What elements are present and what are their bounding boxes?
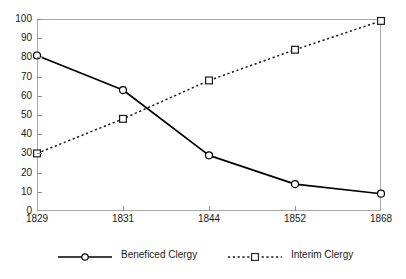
y-axis-tick-mark bbox=[37, 173, 42, 174]
y-axis-tick-mark bbox=[37, 38, 42, 39]
data-point-marker[interactable] bbox=[120, 115, 127, 122]
x-axis-tick-mark bbox=[123, 206, 124, 211]
data-point-marker[interactable] bbox=[292, 46, 299, 53]
y-axis-tick-mark bbox=[37, 19, 42, 20]
y-axis-tick-mark bbox=[37, 134, 42, 135]
legend-swatch-solid-circle-icon bbox=[58, 249, 112, 261]
legend-item-beneficed-clergy[interactable]: Beneficed Clergy bbox=[58, 246, 197, 264]
line-chart: 0102030405060708090100 18291831184418521… bbox=[0, 0, 406, 279]
legend-label-interim-clergy: Interim Clergy bbox=[291, 249, 353, 261]
data-point-marker[interactable] bbox=[292, 181, 299, 188]
y-axis-tick-mark bbox=[37, 77, 42, 78]
y-axis-tick-mark bbox=[37, 153, 42, 154]
y-axis-tick-mark bbox=[37, 192, 42, 193]
x-axis-tick-mark bbox=[209, 206, 210, 211]
y-axis-tick-mark bbox=[37, 57, 42, 58]
data-point-marker[interactable] bbox=[206, 152, 213, 159]
series-line-interim-clergy bbox=[37, 21, 381, 153]
data-point-marker[interactable] bbox=[206, 77, 213, 84]
legend-label-beneficed-clergy: Beneficed Clergy bbox=[121, 249, 197, 261]
series-line-beneficed-clergy bbox=[37, 55, 381, 193]
data-point-marker[interactable] bbox=[378, 18, 385, 25]
chart-legend: Beneficed Clergy Interim Clergy bbox=[0, 246, 406, 268]
y-axis-tick-mark bbox=[37, 115, 42, 116]
data-series-layer bbox=[0, 0, 406, 279]
legend-item-interim-clergy[interactable]: Interim Clergy bbox=[228, 246, 353, 264]
x-axis-tick-mark bbox=[295, 206, 296, 211]
legend-swatch-dotted-square-icon bbox=[228, 249, 282, 261]
data-point-marker[interactable] bbox=[378, 190, 385, 197]
data-point-marker[interactable] bbox=[120, 87, 127, 94]
y-axis-tick-mark bbox=[37, 96, 42, 97]
